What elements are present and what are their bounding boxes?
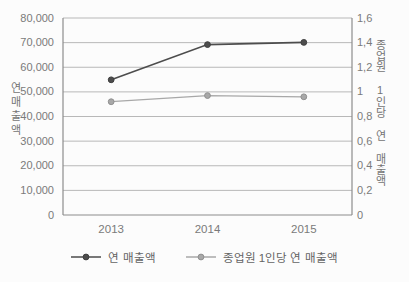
right-axis-title: 종업원 1인당 연 매출액 (372, 39, 388, 186)
left-axis-tick: 80,000 (2, 13, 54, 24)
data-point (301, 39, 307, 45)
data-point (205, 93, 211, 99)
chart-figure: 010,00020,00030,00040,00050,00060,00070,… (0, 0, 409, 282)
left-axis-tick: 10,000 (2, 185, 54, 196)
x-axis-label: 2014 (178, 223, 238, 235)
left-axis-tick: 0 (2, 210, 54, 221)
legend: 연 매출액종업원 1인당 연 매출액 (0, 249, 409, 265)
left-axis-title: 연매출액 (7, 82, 23, 138)
data-point (205, 42, 211, 48)
legend-marker-icon (186, 252, 216, 262)
legend-marker-icon (71, 252, 101, 262)
left-axis-tick: 70,000 (2, 37, 54, 48)
left-axis-tick: 60,000 (2, 62, 54, 73)
legend-label: 종업원 1인당 연 매출액 (223, 249, 338, 265)
x-axis-label: 2015 (274, 223, 334, 235)
legend-item-0: 연 매출액 (71, 249, 155, 265)
line-chart-canvas (0, 0, 409, 282)
legend-item-1: 종업원 1인당 연 매출액 (186, 249, 338, 265)
data-point (301, 94, 307, 100)
data-point (108, 77, 114, 83)
data-point (108, 99, 114, 105)
right-axis-tick: 1,6 (357, 13, 397, 24)
x-axis-label: 2013 (81, 223, 141, 235)
right-axis-tick: 0,2 (357, 185, 397, 196)
left-axis-tick: 20,000 (2, 160, 54, 171)
right-axis-tick: 0 (357, 210, 397, 221)
legend-label: 연 매출액 (108, 249, 155, 265)
